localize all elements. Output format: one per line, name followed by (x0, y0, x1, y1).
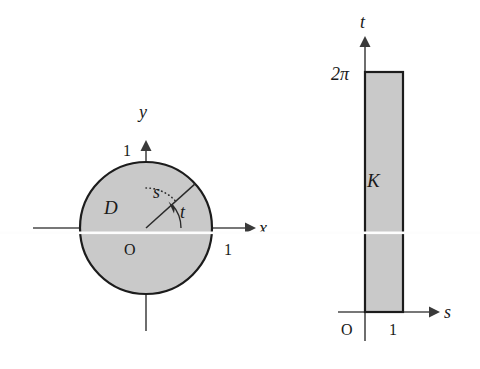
y-tick-label-1: 1 (123, 142, 131, 159)
s-tick-label-1: 1 (389, 321, 397, 338)
s-axis-arrowhead (429, 307, 440, 318)
axis-label-s: s (444, 302, 451, 322)
x-tick-label-1: 1 (224, 241, 232, 258)
t-axis-arrowhead (360, 36, 371, 47)
axis-label-x: x (258, 218, 267, 238)
parameter-rectangle-panel: K O s t 2π 1 (331, 12, 451, 341)
region-label-k: K (366, 170, 381, 191)
origin-label-right: O (341, 321, 353, 338)
t-tick-label-2pi: 2π (331, 64, 350, 84)
origin-label-left: O (124, 241, 136, 258)
axis-label-t: t (360, 12, 366, 32)
figure-canvas: D O x y 1 1 s t K O s t 2π 1 (0, 0, 480, 369)
parameter-rectangle-region (365, 72, 403, 312)
axis-label-y: y (137, 102, 147, 122)
y-axis-arrowhead (141, 140, 152, 151)
radius-label-s: s (153, 182, 160, 202)
unit-disk-panel: D O x y 1 1 s t (33, 102, 267, 331)
figure-container: D O x y 1 1 s t K O s t 2π 1 (0, 0, 480, 369)
region-label-d: D (103, 197, 118, 218)
scan-artifact-line (0, 232, 480, 235)
